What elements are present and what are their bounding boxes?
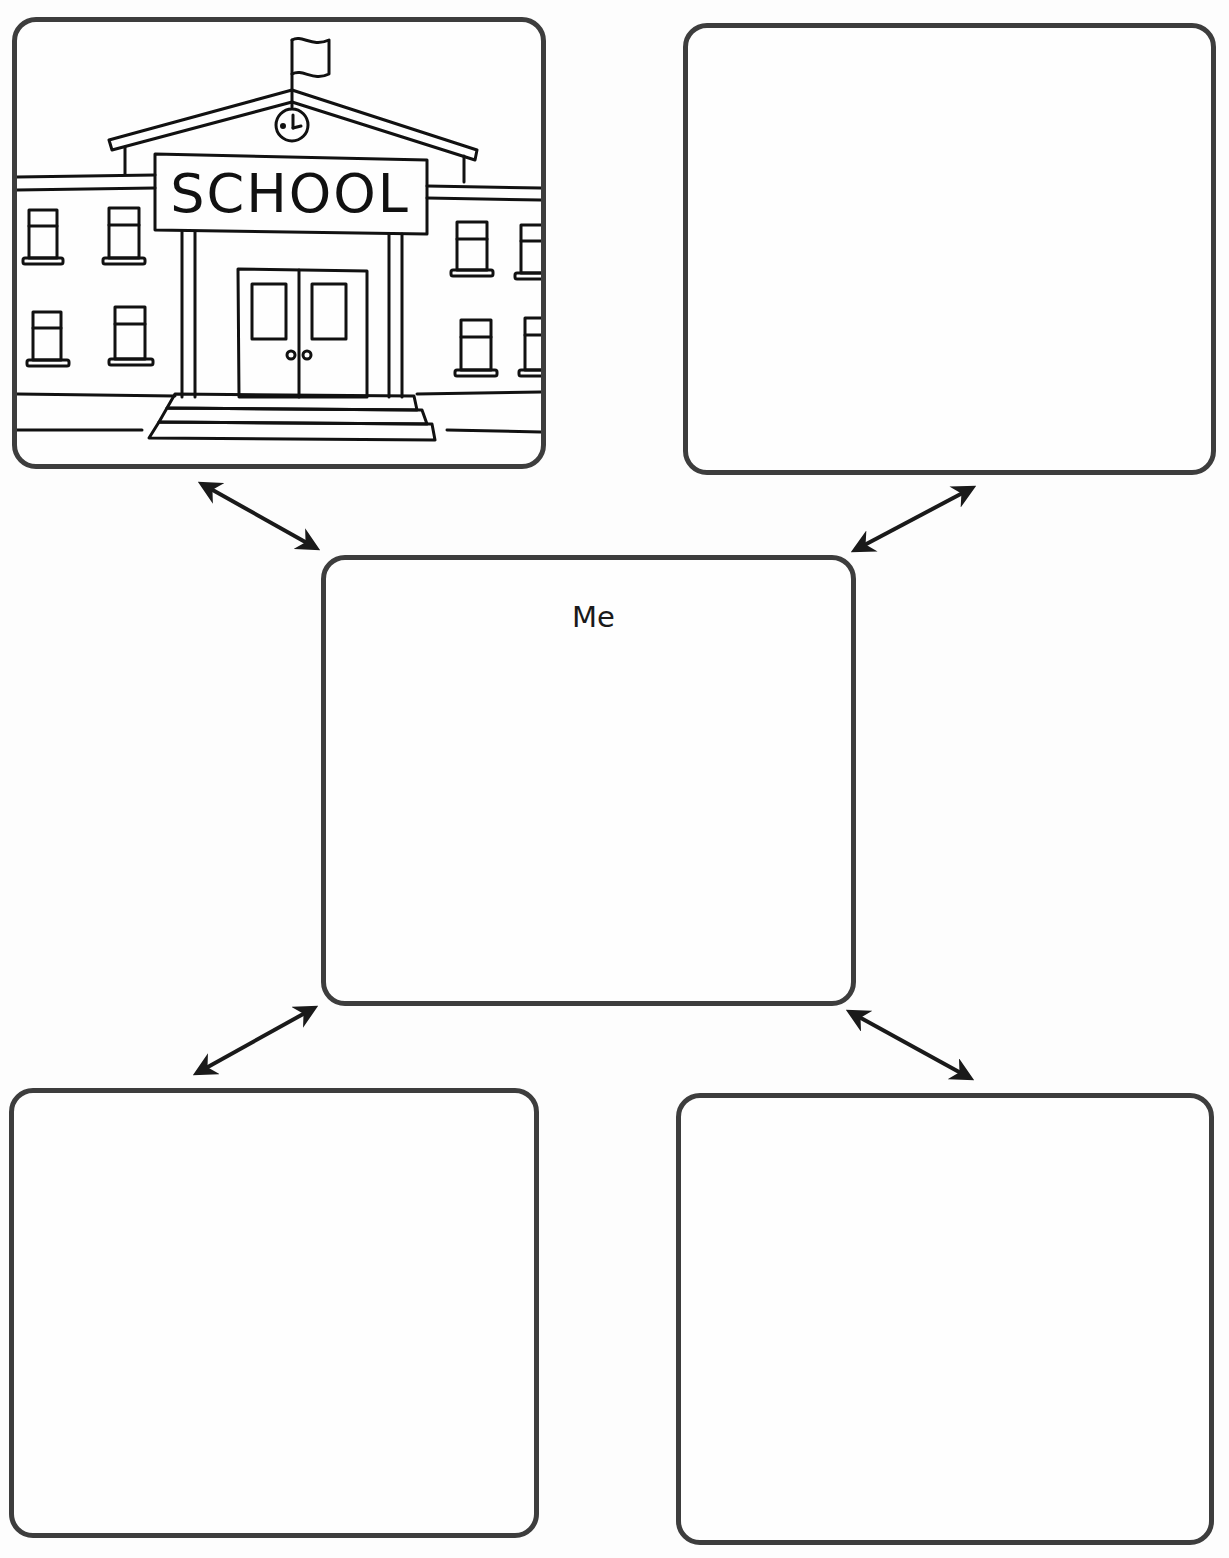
node-top-left-school: SCHOOL [12, 17, 546, 469]
steps [149, 394, 435, 440]
double-arrow-icon-top-left [202, 484, 316, 548]
double-arrow-icon-bottom-left [197, 1008, 314, 1073]
node-bottom-left-empty [9, 1088, 539, 1538]
windows-left [23, 208, 153, 366]
double-arrow-icon-bottom-right [850, 1012, 970, 1078]
double-doors [238, 269, 367, 397]
node-top-right-empty [683, 23, 1216, 475]
windows-right [451, 222, 541, 376]
clock-icon [276, 109, 308, 141]
node-bottom-right-empty [676, 1093, 1214, 1545]
columns [182, 232, 402, 397]
school-building-illustration: SCHOOL [17, 22, 541, 464]
node-center-me: Me [321, 555, 856, 1006]
double-arrow-icon-top-right [855, 488, 972, 550]
center-label: Me [326, 600, 851, 634]
school-sign: SCHOOL [155, 154, 427, 234]
svg-text:SCHOOL: SCHOOL [170, 162, 410, 225]
